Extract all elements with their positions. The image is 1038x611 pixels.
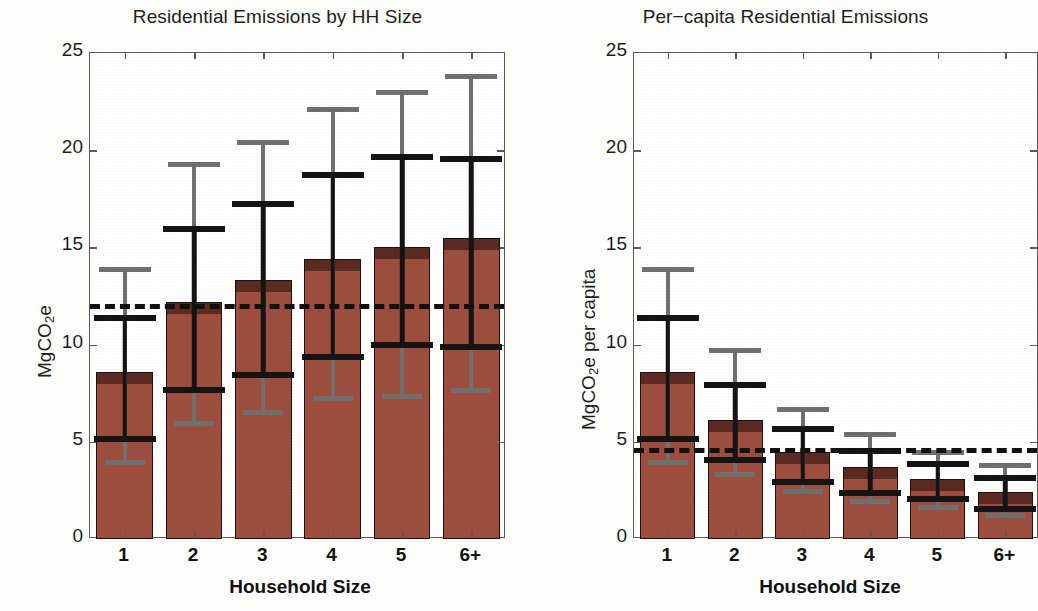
y-axis-tick-label: 25 — [581, 39, 627, 61]
y-axis-tick-label: 20 — [581, 136, 627, 158]
error-bar-inner-4 — [837, 448, 903, 497]
error-bar-cap-upper — [168, 162, 220, 167]
x-axis-tick-mark — [471, 53, 473, 59]
plot-area — [633, 52, 1038, 538]
x-axis-tick-label-2: 2 — [168, 544, 218, 566]
error-bar-stem — [330, 172, 335, 361]
x-axis-tick-mark — [194, 53, 196, 59]
error-bar-cap-upper — [445, 74, 497, 79]
error-bar-cap-upper — [974, 475, 1036, 481]
x-axis-tick-mark — [263, 53, 265, 59]
x-axis-tick-mark — [125, 531, 127, 537]
x-axis-tick-label-5: 5 — [376, 544, 426, 566]
chart-title: Residential Emissions by HH Size — [0, 6, 519, 28]
error-bar-cap-lower — [974, 506, 1036, 512]
x-axis-tick-mark — [735, 53, 737, 59]
x-axis-tick-label-5: 5 — [912, 544, 962, 566]
y-axis-tick-mark — [1030, 150, 1037, 152]
x-axis-tick-label-2: 2 — [709, 544, 759, 566]
x-axis-tick-label-3: 3 — [237, 544, 287, 566]
error-bar-cap-lower — [907, 496, 969, 502]
error-bar-cap-lower — [382, 394, 422, 399]
error-bar-cap-upper — [232, 201, 294, 207]
y-axis-tick-label: 15 — [37, 233, 83, 255]
x-axis-tick-label-4: 4 — [307, 544, 357, 566]
x-axis-tick-mark — [333, 53, 335, 59]
x-axis-label: Household Size — [150, 576, 450, 598]
y-axis-label-post: e per capita — [578, 269, 599, 368]
error-bar-cap-lower — [704, 457, 766, 463]
error-bar-stem — [666, 315, 671, 441]
error-bar-stem — [801, 426, 806, 484]
panel-residential-emissions: Residential Emissions by HH Size MgCO2e … — [0, 0, 519, 611]
y-axis-label-post: e — [34, 305, 55, 316]
error-bar-cap-lower — [451, 388, 491, 393]
error-bar-inner-1 — [635, 315, 701, 441]
y-axis-tick-mark — [90, 247, 97, 249]
plot-area — [89, 52, 505, 538]
error-bar-cap-lower — [918, 505, 958, 510]
x-axis-tick-mark — [402, 53, 404, 59]
x-axis-tick-mark — [870, 53, 872, 59]
error-bar-inner-5 — [369, 154, 435, 348]
y-axis-tick-label: 15 — [581, 233, 627, 255]
error-bar-stem — [192, 226, 197, 393]
x-axis-tick-mark — [402, 531, 404, 537]
x-axis-tick-mark — [803, 53, 805, 59]
x-axis-tick-mark — [125, 53, 127, 59]
error-bar-inner-6plus — [438, 156, 504, 350]
error-bar-cap-lower — [163, 387, 225, 393]
figure-two-panel-bar-charts: Residential Emissions by HH Size MgCO2e … — [0, 0, 1038, 611]
error-bar-cap-lower — [715, 472, 755, 477]
y-axis-tick-label: 5 — [581, 428, 627, 450]
error-bar-stem — [122, 315, 127, 441]
error-bar-cap-upper — [302, 172, 364, 178]
x-axis-tick-label-4: 4 — [844, 544, 894, 566]
x-axis-tick-mark — [1005, 531, 1007, 537]
chart-title: Per−capita Residential Emissions — [519, 6, 1038, 28]
x-axis-tick-mark — [668, 531, 670, 537]
x-axis-tick-mark — [938, 53, 940, 59]
error-bar-cap-lower — [94, 436, 156, 442]
y-axis-tick-label: 0 — [581, 525, 627, 547]
y-axis-tick-label: 20 — [37, 136, 83, 158]
error-bar-cap-upper — [709, 348, 761, 353]
y-axis-tick-label: 25 — [37, 39, 83, 61]
error-bar-cap-lower — [440, 344, 502, 350]
error-bar-cap-lower — [839, 490, 901, 496]
error-bar-cap-lower — [105, 460, 145, 465]
x-axis-tick-mark — [870, 531, 872, 537]
error-bar-cap-upper — [777, 407, 829, 412]
error-bar-cap-upper — [979, 463, 1031, 468]
error-bar-inner-6plus — [972, 475, 1038, 512]
y-axis-tick-mark — [634, 150, 641, 152]
error-bar-cap-lower — [313, 396, 353, 401]
x-axis-tick-label-1: 1 — [99, 544, 149, 566]
error-bar-cap-upper — [99, 267, 151, 272]
error-bar-stem — [469, 156, 474, 350]
y-axis-label-sub: 2 — [42, 316, 57, 323]
x-axis-label: Household Size — [680, 576, 980, 598]
x-axis-tick-label-3: 3 — [777, 544, 827, 566]
y-axis-tick-mark — [90, 150, 97, 152]
error-bar-cap-lower — [850, 499, 890, 504]
y-axis-tick-mark — [1030, 442, 1037, 444]
x-axis-tick-mark — [735, 531, 737, 537]
error-bar-stem — [868, 448, 873, 497]
error-bar-cap-upper — [844, 432, 896, 437]
error-bar-cap-lower — [648, 460, 688, 465]
y-axis-label-sub: 2 — [586, 368, 601, 375]
y-axis-tick-label: 10 — [37, 331, 83, 353]
error-bar-inner-3 — [770, 426, 836, 484]
error-bar-inner-3 — [230, 201, 296, 378]
error-bar-cap-upper — [376, 90, 428, 95]
panel-per-capita-emissions: Per−capita Residential Emissions MgCO2e … — [519, 0, 1038, 611]
error-bar-cap-upper — [907, 461, 969, 467]
error-bar-cap-lower — [302, 354, 364, 360]
x-axis-tick-mark — [333, 531, 335, 537]
y-axis-tick-label: 0 — [37, 525, 83, 547]
x-axis-tick-mark — [803, 531, 805, 537]
error-bar-inner-2 — [161, 226, 227, 393]
x-axis-tick-mark — [194, 531, 196, 537]
y-axis-label-pre: MgCO — [578, 375, 599, 430]
